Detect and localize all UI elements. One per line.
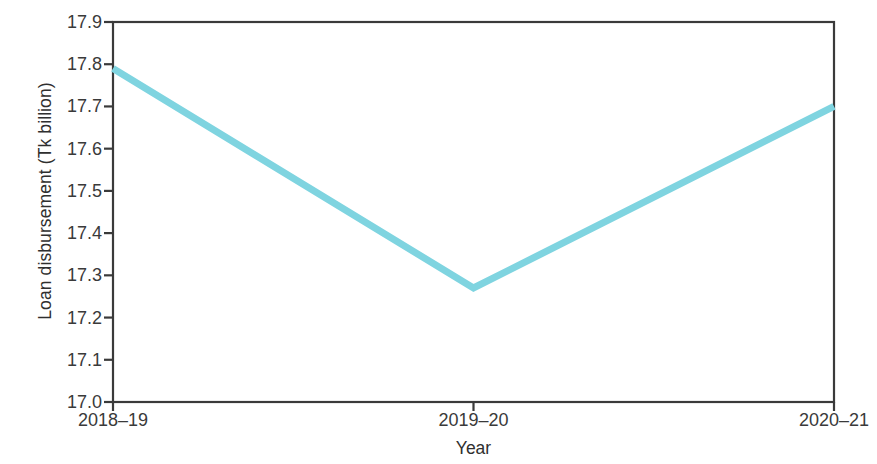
axis-frame bbox=[113, 22, 834, 402]
chart-figure: Loan disbursement (Tk billion) 17.017.11… bbox=[0, 0, 877, 464]
data-series-line bbox=[113, 68, 834, 288]
plot-area bbox=[0, 0, 877, 464]
x-axis-ticks bbox=[113, 402, 834, 411]
y-axis-ticks bbox=[104, 22, 113, 402]
